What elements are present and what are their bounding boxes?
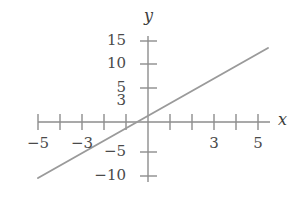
x-tick-label-5: 5 bbox=[244, 136, 272, 151]
y-tick-label--10: −10 bbox=[84, 168, 126, 183]
y-tick-label-10: 10 bbox=[96, 56, 126, 71]
x-tick-label--5: −5 bbox=[20, 136, 56, 151]
x-tick-label-3: 3 bbox=[200, 136, 228, 151]
x-axis-label: x bbox=[278, 112, 287, 128]
y-tick-label-3: 3 bbox=[96, 93, 126, 108]
y-tick-label-15: 15 bbox=[96, 33, 126, 48]
x-tick-label--3: −3 bbox=[64, 136, 100, 151]
plot-area bbox=[0, 0, 301, 202]
data-line-series-1 bbox=[38, 48, 268, 178]
chart-figure: 15 10 5 3 −5 −10 −5 −3 3 5 y x bbox=[0, 0, 301, 202]
y-axis-label: y bbox=[144, 8, 153, 24]
